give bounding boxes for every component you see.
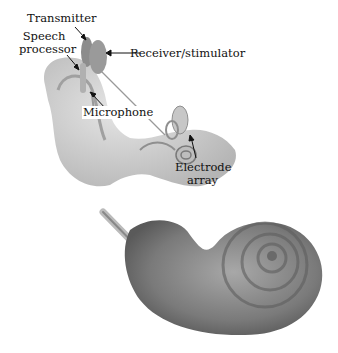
label-receiver-stimulator: Receiver/stimulator xyxy=(130,47,245,60)
cochlea-illustration xyxy=(103,212,322,335)
label-transmitter: Transmitter xyxy=(27,12,96,25)
label-microphone: Microphone xyxy=(82,106,154,119)
label-electrode-line2: array xyxy=(175,174,230,187)
label-speech-processor-line2: processor xyxy=(19,43,69,56)
label-speech-processor: Speech processor xyxy=(19,30,69,56)
label-electrode-array: Electrode array xyxy=(175,161,230,187)
